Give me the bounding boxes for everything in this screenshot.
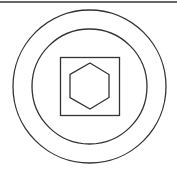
outer-circle [13,10,166,163]
inner-circle [32,29,147,144]
hexagon [70,63,109,109]
concentric-shapes-diagram [0,0,177,170]
